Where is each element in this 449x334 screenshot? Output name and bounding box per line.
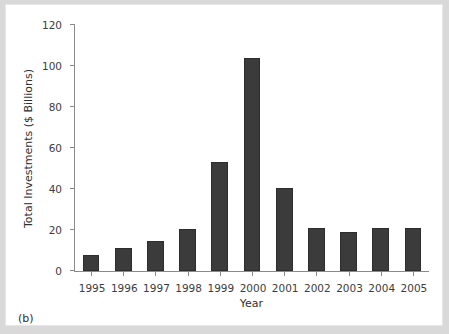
x-tick-label: 2001 — [272, 283, 299, 294]
x-tick: 2000 — [252, 271, 253, 276]
bar — [211, 162, 228, 271]
bar — [83, 255, 100, 271]
y-axis-title-text: Total Investments ($ Billions) — [22, 69, 35, 228]
x-tick-label: 2002 — [304, 283, 331, 294]
y-tick-label: 40 — [49, 184, 62, 195]
figure-caption: (b) — [18, 312, 34, 325]
x-axis-title-text: Year — [240, 297, 263, 310]
y-tick-label: 20 — [49, 225, 62, 236]
bar — [115, 248, 132, 271]
x-tick: 2003 — [349, 271, 350, 276]
chart-panel: Total Investments ($ Billions) 020406080… — [5, 4, 443, 326]
y-tick-label: 0 — [55, 266, 62, 277]
x-axis-title: Year — [74, 297, 429, 310]
y-tick-label: 100 — [42, 61, 62, 72]
x-tick: 2004 — [381, 271, 382, 276]
figure-b: Total Investments ($ Billions) 020406080… — [0, 0, 449, 334]
bar — [147, 241, 164, 271]
x-tick-label: 2005 — [401, 283, 428, 294]
x-tick-label: 1996 — [111, 283, 138, 294]
x-tick-label: 2004 — [368, 283, 395, 294]
bar-series — [75, 25, 429, 271]
x-tick-label: 2000 — [240, 283, 267, 294]
x-tick: 2002 — [316, 271, 317, 276]
y-axis-title: Total Investments ($ Billions) — [20, 25, 36, 272]
bar — [244, 58, 261, 271]
y-tick-label: 60 — [49, 143, 62, 154]
bar — [179, 229, 196, 271]
bar — [405, 228, 422, 271]
x-tick-label: 1999 — [207, 283, 234, 294]
x-tick-label: 1998 — [175, 283, 202, 294]
bar — [372, 228, 389, 271]
x-tick-label: 1995 — [79, 283, 106, 294]
x-tick: 1995 — [91, 271, 92, 276]
x-tick: 2001 — [284, 271, 285, 276]
x-tick: 1996 — [123, 271, 124, 276]
x-tick: 1997 — [155, 271, 156, 276]
plot-area: 020406080100120 199519961997199819992000… — [74, 25, 429, 272]
bar — [308, 228, 325, 271]
x-tick: 1998 — [188, 271, 189, 276]
x-tick-label: 1997 — [143, 283, 170, 294]
x-tick: 2005 — [413, 271, 414, 276]
x-tick-label: 2003 — [336, 283, 363, 294]
x-tick: 1999 — [220, 271, 221, 276]
bar — [276, 188, 293, 271]
y-tick-label: 80 — [49, 102, 62, 113]
y-tick-label: 120 — [42, 20, 62, 31]
bar — [340, 232, 357, 271]
